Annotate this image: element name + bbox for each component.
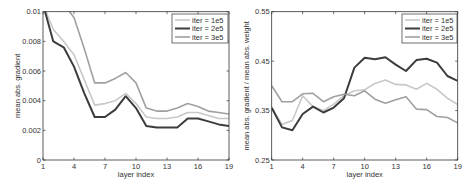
- x-tick-label: 19: [225, 162, 233, 171]
- x-tick-label: 1: [270, 162, 274, 171]
- y-tick-label: 0.004: [22, 96, 41, 105]
- x-tick-label: 4: [301, 162, 305, 171]
- y-tick-label: 0.002: [22, 126, 41, 135]
- y-tick-label: 0.01: [26, 7, 41, 16]
- x-tick-label: 19: [454, 162, 462, 171]
- y-tick-label: 0.45: [255, 57, 270, 66]
- y-tick-label: 0.008: [22, 37, 41, 46]
- series-line-iter2e5: [272, 57, 458, 130]
- x-axis-label: layer index: [118, 170, 155, 179]
- x-axis-label: layer index: [347, 170, 384, 179]
- x-tick-label: 4: [72, 162, 76, 171]
- x-tick-label: 1: [41, 162, 45, 171]
- legend: iter = 1e5iter = 2e5iter = 3e5: [402, 14, 457, 43]
- series-lines: [272, 57, 458, 130]
- x-tick-label: 13: [392, 162, 400, 171]
- y-tick-label: 0.35: [255, 106, 270, 115]
- y-tick-label: 0.55: [255, 7, 270, 16]
- y-tick-label: 0.006: [22, 67, 41, 76]
- x-tick-label: 7: [332, 162, 336, 171]
- legend-entry: iter = 3e5: [422, 33, 453, 42]
- x-tick-label: 13: [163, 162, 171, 171]
- right-chart-gradient-weight-ratio: 147101316190.250.350.450.55layer indexme…: [242, 7, 462, 179]
- chart-figure: 1471013161900.0020.0040.0060.0080.01laye…: [0, 0, 475, 188]
- legend: iter = 1e5iter = 2e5iter = 3e5: [172, 14, 228, 43]
- x-tick-label: 16: [423, 162, 431, 171]
- legend-entry: iter = 3e5: [192, 33, 223, 42]
- x-tick-label: 7: [103, 162, 107, 171]
- left-chart-mean-abs-gradient: 1471013161900.0020.0040.0060.0080.01laye…: [13, 4, 233, 179]
- y-tick-label: 0: [37, 156, 41, 165]
- y-axis-label: mean abs. gradient / mean abs. weight: [242, 20, 251, 150]
- y-axis-label: mean abs. gradient: [13, 53, 22, 118]
- y-tick-label: 0.25: [255, 156, 270, 165]
- x-tick-label: 16: [194, 162, 202, 171]
